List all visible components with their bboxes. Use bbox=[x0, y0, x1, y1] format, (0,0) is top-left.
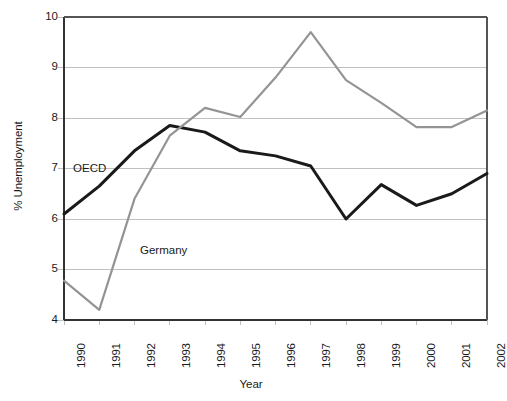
y-tick-label-6: 6 bbox=[24, 213, 58, 224]
y-tick-label-9: 9 bbox=[24, 61, 58, 72]
x-tick-label-1993: 1993 bbox=[180, 343, 192, 368]
x-tick-label-1997: 1997 bbox=[320, 343, 332, 368]
y-tick-label-4: 4 bbox=[24, 314, 58, 325]
x-tick-label-2002: 2002 bbox=[495, 343, 507, 368]
footer-partial-text bbox=[0, 392, 502, 401]
y-axis-title: % Unemployment bbox=[12, 86, 24, 246]
x-tick-label-1992: 1992 bbox=[145, 343, 157, 368]
x-tick-label-1991: 1991 bbox=[110, 343, 122, 368]
x-tick-label-2001: 2001 bbox=[460, 343, 472, 368]
x-tick-label-1998: 1998 bbox=[355, 343, 367, 368]
y-tick-label-10: 10 bbox=[24, 11, 58, 22]
x-tick-label-1990: 1990 bbox=[75, 343, 87, 368]
y-tick-label-5: 5 bbox=[24, 263, 58, 274]
series-label-oecd: OECD bbox=[73, 162, 106, 174]
x-tick-label-1999: 1999 bbox=[390, 343, 402, 368]
x-tick-label-1996: 1996 bbox=[285, 343, 297, 368]
x-axis-title: Year bbox=[0, 378, 502, 390]
series-label-germany: Germany bbox=[140, 244, 187, 256]
x-tick-label-1995: 1995 bbox=[250, 343, 262, 368]
x-tick-label-1994: 1994 bbox=[215, 343, 227, 368]
y-tick-label-8: 8 bbox=[24, 112, 58, 123]
series-lines bbox=[64, 32, 487, 310]
y-tick-label-7: 7 bbox=[24, 162, 58, 173]
gridlines bbox=[64, 17, 487, 270]
x-tick-label-2000: 2000 bbox=[425, 343, 437, 368]
